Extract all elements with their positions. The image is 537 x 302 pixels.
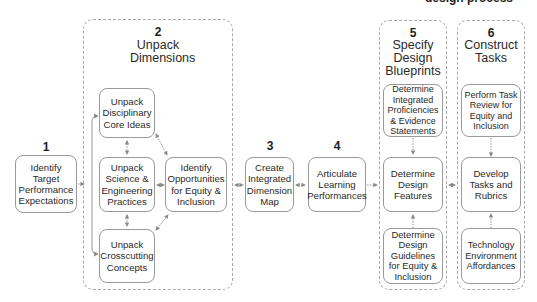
step-3-number: 3 [246,139,294,153]
step-6-develop-tasks-rubrics: Develop Tasks and Rubrics [461,157,521,212]
step-2-number: 2 [83,25,233,39]
step-5-determine-equity-guidelines: Determine Design Guidelines for Equity &… [383,228,443,284]
step-6-perform-task-review: Perform Task Review for Equity and Inclu… [461,84,521,137]
step-4-number: 4 [308,139,366,153]
step-5-determine-proficiencies: Determine Integrated Proficiencies & Evi… [383,84,443,137]
step-5-determine-design-features: Determine Design Features [383,157,443,212]
step-1-number: 1 [15,140,77,154]
step-3-create-integrated-dimension-map: Create Integrated Dimension Map [245,157,294,212]
step-2-title: Unpack Dimensions [130,39,186,65]
step-2-unpack-sep: Unpack Science & Engineering Practices [99,157,155,212]
step-4-articulate-learning-performances: Articulate Learning Performances [308,157,366,212]
step-6-technology-affordances: Technology Environment Affordances [461,228,521,284]
step-2-unpack-cc: Unpack Crosscutting Concepts [99,229,155,283]
step-1-identify-performance-expectations: Identify Target Performance Expectations [15,155,77,213]
step-2-unpack-dci: Unpack Disciplinary Core Ideas [99,88,155,138]
step-2-identify-equity-opportunities: Identify Opportunities for Equity & Incl… [165,157,227,212]
step-6-title: Construct Tasks [459,39,523,65]
step-5-title: Specify Design Blueprints [381,39,445,78]
